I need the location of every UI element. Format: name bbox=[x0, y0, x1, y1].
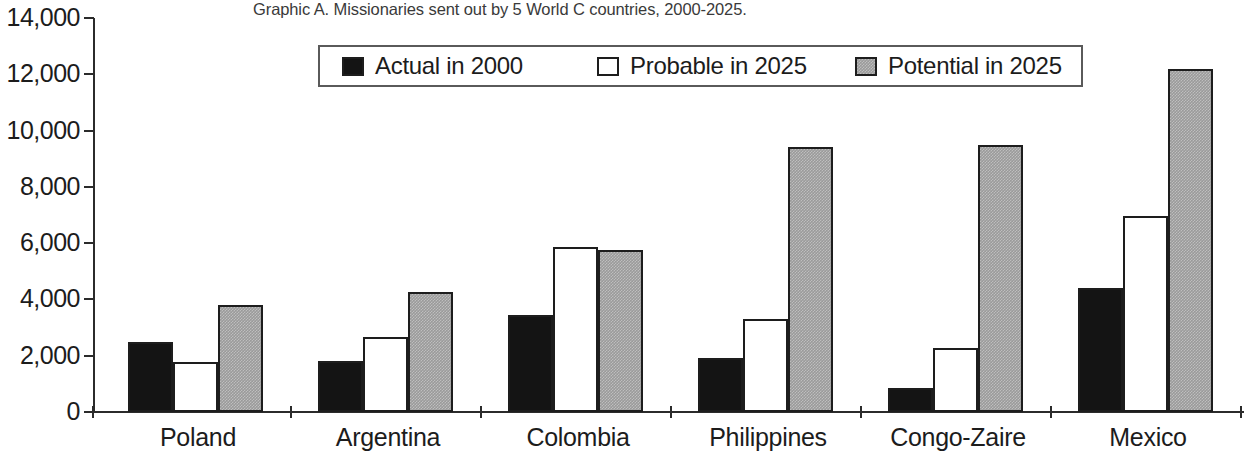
legend-item-actual[interactable]: Actual in 2000 bbox=[342, 54, 523, 78]
white-square-icon bbox=[597, 57, 619, 76]
bar-argentina-probable bbox=[363, 337, 408, 412]
bar-congo-zaire-actual bbox=[888, 388, 933, 412]
bar-poland-probable bbox=[173, 362, 218, 412]
legend-item-label: Potential in 2025 bbox=[888, 54, 1062, 78]
legend-item-label: Probable in 2025 bbox=[630, 54, 807, 78]
bar-philippines-probable bbox=[743, 319, 788, 412]
bar-philippines-actual bbox=[698, 358, 743, 412]
chart-page: Graphic A. Missionaries sent out by 5 Wo… bbox=[0, 0, 1247, 459]
bar-mexico-actual bbox=[1078, 288, 1123, 412]
bar-philippines-potential bbox=[788, 147, 833, 412]
bar-mexico-probable bbox=[1123, 216, 1168, 412]
bar-argentina-actual bbox=[318, 361, 363, 412]
black-square-icon bbox=[342, 57, 364, 76]
chart-legend: Actual in 2000Probable in 2025Potential … bbox=[318, 45, 1083, 87]
legend-item-potential[interactable]: Potential in 2025 bbox=[855, 54, 1062, 78]
bar-argentina-potential bbox=[408, 292, 453, 412]
bar-colombia-probable bbox=[553, 247, 598, 412]
bar-poland-potential bbox=[218, 305, 263, 412]
bar-mexico-potential bbox=[1168, 69, 1213, 412]
legend-item-label: Actual in 2000 bbox=[375, 54, 523, 78]
gray-square-icon bbox=[855, 57, 877, 76]
bar-colombia-potential bbox=[598, 250, 643, 412]
bar-colombia-actual bbox=[508, 315, 553, 412]
bar-congo-zaire-probable bbox=[933, 348, 978, 412]
bar-poland-actual bbox=[128, 342, 173, 412]
bar-congo-zaire-potential bbox=[978, 145, 1023, 412]
legend-item-probable[interactable]: Probable in 2025 bbox=[597, 54, 807, 78]
